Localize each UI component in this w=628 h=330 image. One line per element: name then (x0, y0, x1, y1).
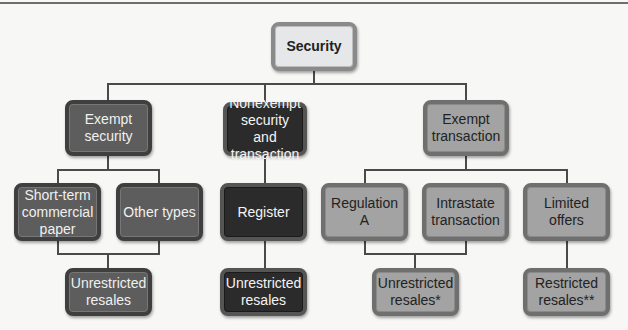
connector (264, 240, 266, 269)
connector (414, 253, 416, 269)
node-register: Register (220, 183, 307, 241)
node-label: Unrestricted resales (226, 275, 301, 309)
connector (107, 83, 467, 85)
node-other-types: Other types (116, 183, 203, 241)
node-label: Other types (123, 204, 195, 221)
node-exempt-security: Exempt security (65, 100, 152, 156)
connector (57, 169, 59, 184)
node-label: Security (286, 38, 341, 55)
connector (107, 253, 109, 269)
connector (57, 169, 160, 171)
node-label: Nonexempt security and transaction (229, 95, 301, 163)
node-intrastate-transaction: Intrastate transaction (422, 183, 509, 241)
connector (566, 240, 568, 269)
connector (107, 155, 109, 170)
connector (364, 169, 366, 184)
node-exempt-transaction: Exempt transaction (423, 100, 509, 156)
node-label: Short-term commercial paper (21, 187, 94, 238)
connector (465, 155, 467, 170)
node-limited-offers: Limited offers (523, 183, 610, 241)
top-rule (0, 2, 628, 4)
node-short-term-commercial-paper: Short-term commercial paper (14, 183, 101, 241)
node-unrestricted-resales-register: Unrestricted resales (220, 268, 307, 316)
node-restricted-resales: Restricted resales** (523, 268, 610, 316)
node-label: Restricted resales** (530, 275, 603, 309)
connector (465, 83, 467, 101)
node-label: Unrestricted resales* (378, 275, 453, 309)
connector (364, 169, 568, 171)
node-label: Exempt transaction (430, 111, 502, 145)
node-label: Intrastate transaction (429, 195, 502, 229)
node-label: Exempt security (72, 111, 145, 145)
connector (158, 169, 160, 184)
node-label: Regulation A (328, 195, 401, 229)
connector (107, 83, 109, 101)
node-regulation-a: Regulation A (321, 183, 408, 241)
node-unrestricted-resales-exempt-security: Unrestricted resales (65, 268, 152, 316)
node-unrestricted-resales-exempt-transaction: Unrestricted resales* (372, 268, 459, 316)
node-label: Limited offers (530, 195, 603, 229)
node-security: Security (271, 22, 357, 71)
node-nonexempt-security-and-transaction: Nonexempt security and transaction (223, 102, 307, 156)
connector (566, 169, 568, 184)
node-label: Register (237, 204, 289, 221)
node-label: Unrestricted resales (71, 275, 146, 309)
